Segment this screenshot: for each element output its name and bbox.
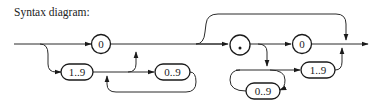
node-fraction-zero-label: 0 — [299, 38, 305, 50]
node-first-digit-label: 1..9 — [69, 66, 86, 78]
digits-to-main-wire — [128, 52, 136, 72]
node-zero-label: 0 — [98, 38, 104, 50]
branch-to-first-digit — [40, 44, 61, 72]
node-last-digit-label: 1..9 — [310, 64, 327, 76]
decimal-point-dot — [239, 47, 242, 50]
node-decimal-point — [230, 35, 250, 55]
bypass-wire — [196, 14, 346, 44]
last-digit-to-main-wire — [335, 48, 342, 70]
node-inner-digits-label: 0..9 — [255, 85, 272, 97]
integer-part: 0 1..9 0..9 — [14, 35, 225, 93]
inner-digits-loop-left — [230, 70, 246, 91]
fraction-part: 0 1..9 0..9 — [196, 14, 368, 99]
branch-to-fraction-digits — [258, 44, 267, 66]
syntax-diagram: 0 1..9 0..9 0 1..9 0..9 — [0, 0, 378, 106]
node-more-digits-label: 0..9 — [164, 66, 181, 78]
